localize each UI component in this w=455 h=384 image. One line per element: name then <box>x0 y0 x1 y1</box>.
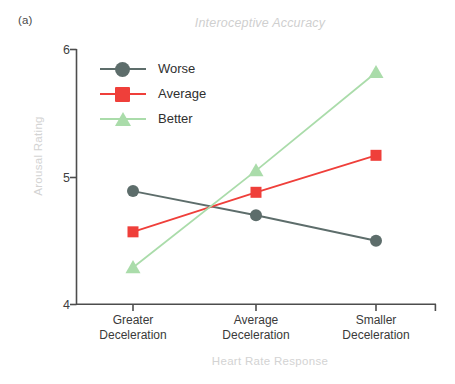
legend-item-average[interactable]: Average <box>100 81 206 106</box>
square-marker-icon <box>128 226 139 237</box>
square-marker-icon <box>371 150 382 161</box>
chart-figure: (a) Interoceptive Accuracy Arousal Ratin… <box>0 0 455 384</box>
legend-label-worse: Worse <box>146 61 195 76</box>
circle-marker-icon <box>127 185 139 197</box>
triangle-marker-icon <box>249 163 264 176</box>
plot-area <box>0 0 455 384</box>
legend-item-better[interactable]: Better <box>100 106 206 131</box>
legend-key-worse <box>100 58 146 80</box>
legend-key-average <box>100 83 146 105</box>
legend-key-better <box>100 108 146 130</box>
legend-label-better: Better <box>146 111 193 126</box>
chart-legend: Worse Average Better <box>100 56 206 131</box>
legend-label-average: Average <box>146 86 206 101</box>
legend-item-worse[interactable]: Worse <box>100 56 206 81</box>
square-marker-icon <box>115 87 130 102</box>
series-average <box>128 150 382 238</box>
triangle-marker-icon <box>126 260 141 273</box>
circle-marker-icon <box>370 235 382 247</box>
circle-marker-icon <box>250 209 262 221</box>
square-marker-icon <box>251 187 262 198</box>
triangle-marker-icon <box>369 65 384 78</box>
triangle-marker-icon <box>115 112 131 126</box>
circle-marker-icon <box>115 62 130 77</box>
